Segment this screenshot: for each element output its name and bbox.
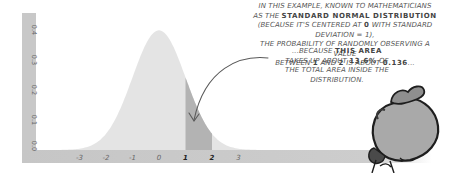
x-tick-label: 3 (236, 154, 240, 162)
x-tick-label: 1 (183, 154, 188, 162)
x-tick-label: -3 (76, 154, 83, 162)
annotation-emphasis: 13.6% (349, 57, 376, 65)
y-tick-label: 0.3 (30, 55, 38, 65)
x-tick-label: -1 (129, 154, 136, 162)
y-tick-label: 0.4 (30, 25, 38, 35)
x-tick-label: 2 (210, 154, 215, 162)
annotation-line: as the standard normal distribution (250, 12, 440, 22)
annotation-text: of (377, 57, 389, 65)
y-tick-label: 0.2 (30, 85, 38, 95)
annotation-line: ...because this area (283, 47, 391, 57)
annotation-line: distribution. (283, 76, 391, 86)
annotation-emphasis: standard normal distribution (282, 12, 437, 20)
annotation-text: takes up about (285, 57, 349, 65)
annotation-text: ... (408, 59, 415, 67)
annotation-line: (because it's centered at 0 with standar… (250, 21, 440, 40)
x-tick-label: -2 (103, 154, 111, 162)
x-tick-label: 0 (157, 154, 162, 162)
secondary-annotation: ...because this area takes up about 13.6… (283, 47, 391, 85)
annotation-text: (because it's centered at (258, 21, 364, 29)
annotation-line: In this example, known to mathematicians (250, 2, 440, 12)
annotation-emphasis: this area (335, 47, 382, 55)
annotation-text: as the (253, 12, 281, 20)
y-tick-label: 0.0 (30, 141, 38, 151)
y-tick-label: 0.1 (30, 115, 38, 125)
annotation-text: ...because (292, 47, 335, 55)
annotation-line: the total area inside the (283, 66, 391, 76)
annotation-line: takes up about 13.6% of (283, 57, 391, 67)
